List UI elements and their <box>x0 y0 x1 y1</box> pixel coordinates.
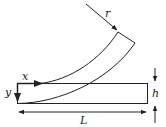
length-label: L <box>79 114 87 127</box>
beam-bending-diagram: r x y h L <box>0 0 166 127</box>
straight-beam <box>18 84 148 104</box>
radius-label: r <box>105 7 111 20</box>
x-axis-label: x <box>22 70 29 83</box>
thickness-label: h <box>152 87 159 100</box>
y-axis-label: y <box>4 86 12 99</box>
radius-arrow <box>86 4 117 30</box>
bent-beam <box>18 32 136 104</box>
